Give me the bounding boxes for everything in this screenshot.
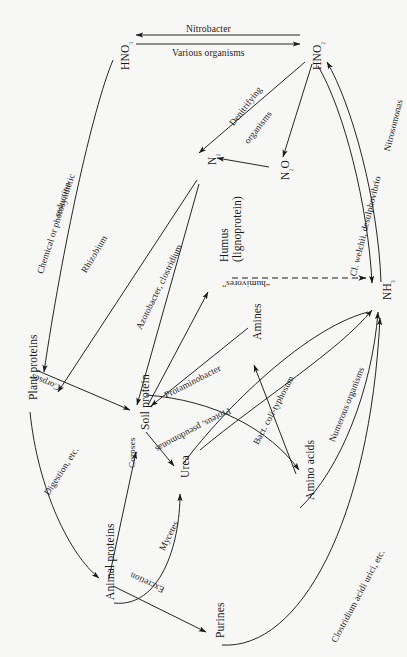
node-hno2: HNO₂ xyxy=(312,42,326,70)
node-amines: Amines xyxy=(252,303,264,340)
node-n2o: N₂O xyxy=(280,160,294,180)
node-urea: Urea xyxy=(180,455,192,478)
edge-label-corpses-animal: Corpses xyxy=(128,438,137,468)
arrow-n2o-to-n2 xyxy=(217,158,269,167)
arrow-soil-protein-to-n2 xyxy=(137,184,199,405)
node-amino-acids: Amino acids xyxy=(305,440,317,500)
node-hno3: HNO₃ xyxy=(120,42,134,70)
arrow-plant-proteins-to-animal-proteins xyxy=(30,412,99,578)
nitrogen-cycle-figure: HNO₃HNO₂N₂N₂ONH₃Humus(lignoprotein)Plant… xyxy=(0,0,407,657)
node-animal-proteins: Animal proteins xyxy=(105,523,117,600)
edge-label-nitrobacter: Nitrobacter xyxy=(186,24,231,34)
edge-label-various-organisms: Various organisms xyxy=(172,48,245,58)
arrow-n2-to-plant-proteins xyxy=(58,180,197,392)
node-plant-proteins: Plant proteins xyxy=(28,334,40,400)
arrow-hno2-to-n2o xyxy=(283,64,312,157)
edge-label-humivores: “humivores” xyxy=(222,279,270,288)
node-n2: N₂ xyxy=(207,153,221,165)
node-nh3: NH₃ xyxy=(382,280,396,300)
node-soil-protein: Soil protein xyxy=(140,374,152,430)
node-humus: Humus(lignoprotein) xyxy=(218,196,244,262)
diagram-arrows-layer xyxy=(0,0,407,657)
node-purines: Purines xyxy=(215,602,227,638)
